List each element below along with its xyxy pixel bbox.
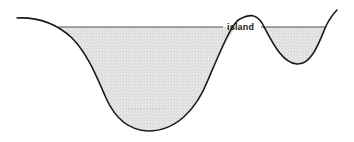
island-label: island [227, 22, 254, 32]
water-body-right [263, 27, 325, 64]
lake-cross-section-diagram [0, 0, 354, 142]
water-body-left [58, 27, 237, 130]
